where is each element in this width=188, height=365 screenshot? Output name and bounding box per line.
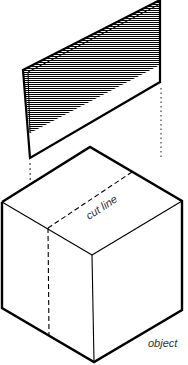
cube bbox=[2, 147, 182, 362]
object-label: object bbox=[148, 337, 178, 349]
section-diagram: cut line object bbox=[0, 0, 188, 365]
section-plane bbox=[0, 0, 188, 160]
